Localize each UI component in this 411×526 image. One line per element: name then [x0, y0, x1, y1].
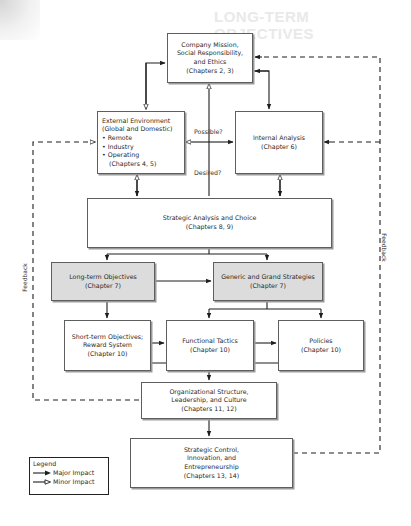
legend-label: Major Impact: [53, 468, 94, 477]
box-organizational-structure: Organizational Structure, Leadership, an…: [141, 382, 277, 419]
filled-arrow-icon: [33, 470, 51, 476]
box-text: Innovation, and: [187, 454, 236, 463]
box-text: Entrepreneurship: [184, 463, 239, 472]
box-external-environment: External Environment (Global and Domesti…: [97, 111, 185, 174]
label-feedback-right: Feedback: [381, 233, 388, 262]
box-text: Social Responsibility,: [177, 49, 243, 58]
box-text: and Ethics: [194, 58, 227, 67]
box-text: Short-term Objectives;: [72, 333, 143, 342]
box-text: (Chapter 6): [261, 143, 297, 152]
box-text: (Global and Domestic): [102, 125, 173, 134]
box-text: (Chapter 10): [87, 350, 127, 359]
box-text: Generic and Grand Strategies: [221, 273, 315, 282]
box-text: (Chapter 7): [250, 282, 286, 291]
legend-item-minor: Minor Impact: [33, 477, 105, 486]
legend-label: Minor Impact: [53, 477, 94, 486]
box-short-term-objectives: Short-term Objectives; Reward System (Ch…: [64, 320, 151, 371]
box-text: Leadership, and Culture: [171, 396, 246, 405]
box-functional-tactics: Functional Tactics (Chapter 10): [166, 320, 254, 371]
box-text: Long-term Objectives: [69, 273, 137, 282]
box-text: Strategic Control,: [184, 446, 239, 455]
box-strategic-control: Strategic Control, Innovation, and Entre…: [130, 438, 293, 488]
box-text: (Chapters 8, 9): [186, 223, 233, 232]
box-text: (Chapter 10): [301, 346, 341, 355]
label-feedback-left: Feedback: [21, 263, 28, 292]
box-generic-grand-strategies: Generic and Grand Strategies (Chapter 7): [213, 262, 323, 301]
box-text: (Chapters 13, 14): [184, 472, 239, 481]
legend-title: Legend: [33, 459, 105, 468]
box-policies: Policies (Chapter 10): [278, 320, 364, 371]
box-text: Functional Tactics: [182, 337, 237, 346]
box-company-mission: Company Mission, Social Responsibility, …: [167, 33, 253, 83]
box-text: External Environment: [102, 117, 170, 126]
legend: Legend Major Impact Minor Impact: [29, 457, 109, 495]
box-text: Reward System: [83, 341, 132, 350]
box-long-term-objectives: Long-term Objectives (Chapter 7): [51, 262, 155, 301]
box-internal-analysis: Internal Analysis (Chapter 6): [235, 111, 323, 174]
box-strategic-analysis: Strategic Analysis and Choice (Chapters …: [87, 198, 332, 248]
box-text: (Chapters 4, 5): [102, 160, 156, 169]
box-text: (Chapters 2, 3): [186, 67, 233, 76]
label-possible: Possible?: [194, 128, 223, 135]
box-text: Strategic Analysis and Choice: [163, 214, 257, 223]
hollow-arrow-icon: [33, 479, 51, 485]
box-text: Internal Analysis: [253, 134, 305, 143]
box-text: (Chapter 10): [190, 346, 230, 355]
box-text: (Chapter 7): [85, 282, 121, 291]
box-text: Company Mission,: [181, 41, 238, 50]
box-text: • Operating: [102, 151, 139, 160]
box-text: • Industry: [102, 143, 134, 152]
label-desired: Desired?: [194, 169, 221, 176]
legend-item-major: Major Impact: [33, 468, 105, 477]
box-text: Organizational Structure,: [169, 388, 248, 397]
box-text: Policies: [309, 337, 332, 346]
box-text: (Chapters 11, 12): [181, 405, 236, 414]
box-text: • Remote: [102, 134, 132, 143]
